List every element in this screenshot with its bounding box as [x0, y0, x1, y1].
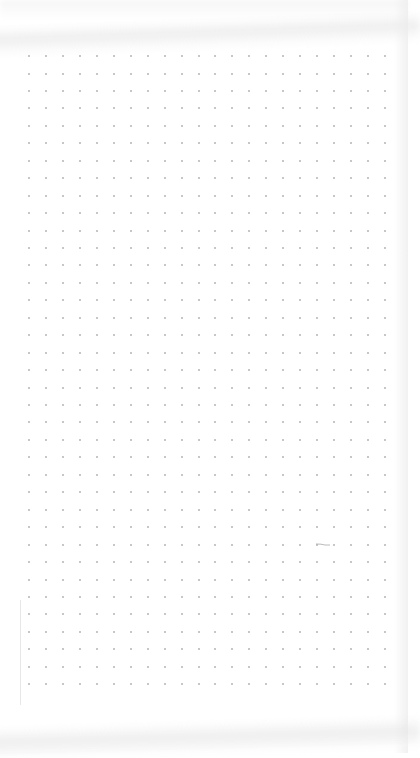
grid-dot: [316, 631, 318, 633]
grid-dot: [45, 579, 47, 581]
grid-dot: [248, 491, 250, 493]
grid-dot: [384, 579, 386, 581]
grid-dot: [164, 369, 166, 371]
grid-dot: [384, 421, 386, 423]
grid-dot: [265, 544, 267, 546]
grid-dot: [62, 282, 64, 284]
grid-dot: [164, 73, 166, 75]
grid-dot: [350, 666, 352, 668]
grid-dot: [79, 561, 81, 563]
grid-dot: [198, 107, 200, 109]
grid-dot: [231, 509, 233, 511]
grid-dot: [181, 631, 183, 633]
grid-dot: [79, 195, 81, 197]
grid-dot: [265, 439, 267, 441]
grid-dot: [231, 439, 233, 441]
grid-dot: [96, 491, 98, 493]
grid-dot: [367, 474, 369, 476]
grid-dot: [248, 613, 250, 615]
grid-dot: [316, 421, 318, 423]
grid-dot: [113, 177, 115, 179]
grid-dot: [130, 212, 132, 214]
grid-dot: [350, 195, 352, 197]
grid-dot: [384, 125, 386, 127]
grid-dot: [231, 317, 233, 319]
grid-dot: [316, 456, 318, 458]
grid-dot: [350, 579, 352, 581]
grid-dot: [214, 456, 216, 458]
grid-dot: [282, 125, 284, 127]
grid-dot: [28, 474, 30, 476]
grid-dot: [282, 334, 284, 336]
grid-dot: [367, 334, 369, 336]
grid-dot: [265, 387, 267, 389]
grid-dot: [181, 456, 183, 458]
grid-dot: [265, 107, 267, 109]
grid-dot: [299, 107, 301, 109]
grid-dot: [265, 474, 267, 476]
grid-dot: [214, 230, 216, 232]
grid-dot: [214, 317, 216, 319]
grid-dot: [333, 421, 335, 423]
grid-dot: [333, 456, 335, 458]
grid-dot: [214, 666, 216, 668]
grid-dot: [181, 90, 183, 92]
grid-dot: [316, 55, 318, 57]
grid-dot: [130, 421, 132, 423]
grid-dot: [316, 299, 318, 301]
grid-dot: [350, 631, 352, 633]
grid-dot: [265, 491, 267, 493]
grid-dot: [79, 631, 81, 633]
grid-dot: [316, 264, 318, 266]
grid-dot: [248, 177, 250, 179]
grid-dot: [214, 404, 216, 406]
grid-dot: [45, 317, 47, 319]
grid-dot: [28, 561, 30, 563]
grid-dot: [248, 526, 250, 528]
grid-dot: [198, 421, 200, 423]
grid-dot: [248, 544, 250, 546]
grid-dot: [198, 509, 200, 511]
grid-dot: [181, 648, 183, 650]
grid-dot: [282, 352, 284, 354]
grid-dot: [28, 613, 30, 615]
grid-dot: [231, 387, 233, 389]
grid-dot: [367, 631, 369, 633]
grid-dot: [282, 456, 284, 458]
grid-dot: [147, 230, 149, 232]
grid-dot: [231, 73, 233, 75]
grid-dot: [265, 247, 267, 249]
grid-dot: [113, 282, 115, 284]
grid-dot: [181, 230, 183, 232]
grid-dot: [181, 125, 183, 127]
grid-dot: [62, 247, 64, 249]
grid-dot: [28, 666, 30, 668]
grid-dot: [231, 107, 233, 109]
grid-dot: [350, 334, 352, 336]
grid-dot: [79, 439, 81, 441]
grid-dot: [96, 421, 98, 423]
grid-dot: [164, 491, 166, 493]
grid-dot: [147, 648, 149, 650]
grid-dot: [164, 683, 166, 685]
grid-dot: [28, 282, 30, 284]
grid-dot: [265, 352, 267, 354]
grid-dot: [181, 474, 183, 476]
grid-dot: [384, 439, 386, 441]
grid-dot: [113, 544, 115, 546]
pencil-mark: [316, 543, 330, 546]
grid-dot: [28, 212, 30, 214]
grid-dot: [96, 142, 98, 144]
grid-dot: [96, 666, 98, 668]
grid-dot: [367, 404, 369, 406]
grid-dot: [181, 282, 183, 284]
grid-dot: [79, 369, 81, 371]
grid-dot: [231, 544, 233, 546]
grid-dot: [147, 387, 149, 389]
grid-dot: [164, 282, 166, 284]
grid-dot: [96, 55, 98, 57]
grid-dot: [333, 264, 335, 266]
grid-dot: [282, 73, 284, 75]
grid-dot: [282, 369, 284, 371]
grid-dot: [79, 142, 81, 144]
